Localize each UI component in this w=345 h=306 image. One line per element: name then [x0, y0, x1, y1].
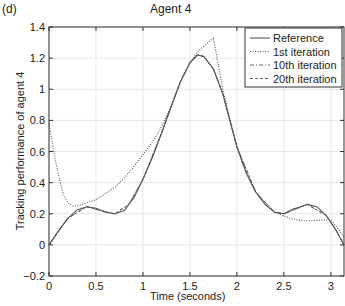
- x-tick-label: 0.5: [88, 280, 103, 292]
- legend-entry: 10th iteration: [273, 59, 337, 71]
- x-tick-label: 1.5: [182, 280, 197, 292]
- legend-entry: Reference: [273, 32, 324, 44]
- y-tick-label: 1.2: [30, 52, 45, 64]
- legend-entry: 20th iteration: [273, 73, 337, 85]
- x-tick-label: 1: [140, 280, 146, 292]
- x-tick-label: 2.5: [276, 280, 291, 292]
- x-tick-label: 3: [328, 280, 334, 292]
- y-tick-label: 0.4: [30, 177, 45, 189]
- y-tick-label: −0.2: [23, 270, 45, 282]
- y-tick-label: 0.8: [30, 114, 45, 126]
- y-tick-label: 0: [39, 239, 45, 251]
- legend-entry: 1st iteration: [273, 46, 330, 58]
- x-tick-label: 2: [234, 280, 240, 292]
- legend: Reference1st iteration10th iteration20th…: [245, 28, 342, 87]
- y-tick-label: 0.2: [30, 208, 45, 220]
- y-tick-label: 0.6: [30, 146, 45, 158]
- y-tick-label: 1.4: [30, 21, 45, 33]
- y-tick-label: 1: [39, 83, 45, 95]
- x-tick-label: 0: [46, 280, 52, 292]
- line-chart: 00.511.522.53−0.200.20.40.60.811.21.4 Re…: [0, 0, 345, 306]
